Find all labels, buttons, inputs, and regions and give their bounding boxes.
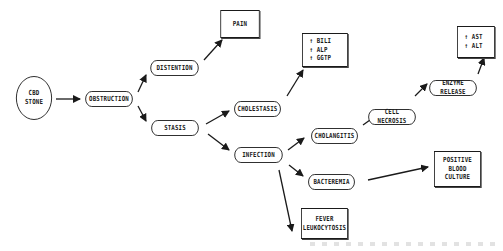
edge-infection-cholangitis	[288, 138, 304, 150]
node-distention-label: DISTENTION	[156, 64, 192, 73]
culture-line3: CULTURE	[443, 173, 472, 182]
edge-stasis-cholestasis	[206, 111, 229, 124]
edge-distention-pain	[204, 40, 222, 60]
edge-cholestasis-labs	[287, 70, 303, 96]
node-cholangitis-label: CHOLANGITIS	[315, 132, 355, 141]
node-stasis: STASIS	[151, 120, 199, 136]
edge-infection-bacteremia	[289, 165, 303, 176]
node-pain: PAIN	[220, 10, 259, 38]
node-enzyme-release-label: ENZYME RELEASE	[430, 79, 476, 97]
node-bacteremia: BACTEREMIA	[308, 174, 355, 190]
culture-line2: BLOOD	[443, 165, 472, 174]
fever-line2: LEUKOCYTOSIS	[303, 224, 346, 233]
node-obstruction-label: OBSTRUCTION	[89, 95, 129, 104]
edge-bacteremia-culture	[368, 167, 428, 180]
edge-stasis-infection	[208, 134, 229, 150]
labs-bili: ↑ BILI	[309, 37, 331, 46]
fever-line1: FEVER	[303, 215, 346, 224]
edge-infection-fever	[279, 170, 292, 231]
labs-ast: ↑ AST	[465, 33, 483, 42]
node-cholestasis-label: CHOLESTASIS	[238, 105, 278, 114]
flow-diagram: CBD STONE OBSTRUCTION DISTENTION PAIN ST…	[0, 0, 503, 251]
node-distention: DISTENTION	[150, 60, 198, 76]
node-cholangitis: CHOLANGITIS	[311, 128, 358, 144]
node-cbd-stone-line2: STONE	[25, 98, 43, 107]
node-infection-label: INFECTION	[242, 151, 275, 160]
node-infection: INFECTION	[234, 147, 282, 163]
node-cholestasis: CHOLESTASIS	[234, 101, 281, 117]
edge-enzyme-labs	[478, 58, 484, 74]
node-cell-necrosis: CELL NECROSIS	[368, 109, 416, 125]
cropped-text-remnant	[310, 242, 500, 246]
node-enzyme-release: ENZYME RELEASE	[429, 80, 477, 96]
node-pain-label: PAIN	[233, 20, 247, 29]
node-cell-necrosis-label: CELL NECROSIS	[369, 108, 415, 126]
node-cbd-stone-line1: CBD	[25, 89, 43, 98]
node-obstruction: OBSTRUCTION	[85, 91, 133, 107]
node-fever-leukocytosis: FEVER LEUKOCYTOSIS	[301, 208, 348, 239]
labs-ggtp: ↑ GGTP	[309, 54, 331, 63]
node-cbd-stone: CBD STONE	[16, 76, 52, 120]
labs-alt: ↑ ALT	[465, 42, 483, 51]
culture-line1: POSITIVE	[443, 156, 472, 165]
node-labs-enzyme: ↑ AST ↑ ALT	[457, 26, 495, 58]
node-positive-blood-culture: POSITIVE BLOOD CULTURE	[434, 151, 481, 187]
edge-cellnecrosis-enzyme	[415, 84, 427, 96]
node-bacteremia-label: BACTEREMIA	[313, 178, 349, 187]
node-labs-cholestasis: ↑ BILI ↑ ALP ↑ GGTP	[302, 33, 348, 67]
node-stasis-label: STASIS	[164, 124, 186, 133]
edge-obstruction-stasis	[138, 106, 146, 121]
labs-alp: ↑ ALP	[309, 46, 331, 55]
edge-obstruction-distention	[138, 75, 146, 92]
